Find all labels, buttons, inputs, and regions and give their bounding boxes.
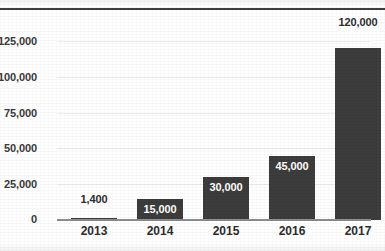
data-label-2016: 45,000	[260, 160, 324, 172]
y-axis-tick-25000: 25,000	[0, 179, 37, 190]
x-axis-tick-2015: 2015	[188, 225, 264, 238]
plot-area: 125,000 100,000 75,000 50,000 25,000 0 1…	[57, 41, 370, 220]
chart-title-cropped	[0, 0, 385, 8]
bar-2017[interactable]	[335, 48, 381, 220]
x-axis-tick-2016: 2016	[254, 225, 330, 238]
y-axis-tick-75000: 75,000	[0, 108, 37, 119]
bar-chart-figure: 125,000 100,000 75,000 50,000 25,000 0 1…	[0, 0, 385, 251]
y-axis-tick-125000: 125,000	[0, 36, 37, 47]
x-axis-tick-2014: 2014	[122, 225, 198, 238]
gridline-125000	[57, 41, 370, 42]
y-axis-tick-50000: 50,000	[0, 143, 37, 154]
gridline-100000	[57, 77, 370, 78]
data-label-2017: 120,000	[320, 16, 385, 28]
y-axis-tick-100000: 100,000	[0, 72, 37, 83]
data-label-2014: 15,000	[128, 203, 192, 215]
header-divider-rule	[0, 8, 385, 10]
x-axis-line	[57, 219, 371, 221]
gridline-50000	[57, 148, 370, 149]
x-axis-tick-2017: 2017	[320, 225, 385, 238]
x-axis-tick-2013: 2013	[56, 225, 132, 238]
data-label-2015: 30,000	[194, 181, 258, 193]
gridline-75000	[57, 113, 370, 114]
y-axis-tick-0: 0	[0, 214, 37, 225]
data-label-2013: 1,400	[56, 193, 132, 205]
